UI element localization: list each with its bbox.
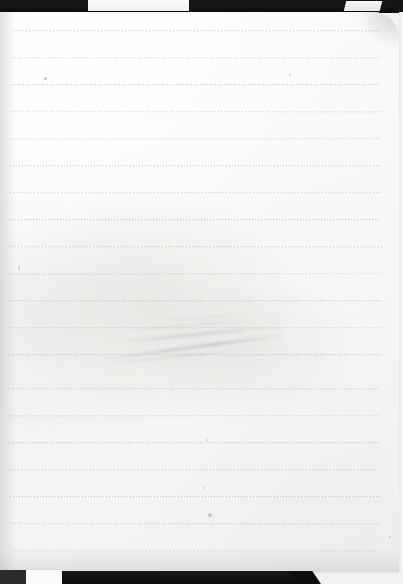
paper-bottom-edge-shadow <box>0 548 399 572</box>
paper-speck-upper-left <box>44 77 47 80</box>
scanner-bed-bottom-gap <box>26 570 62 584</box>
ruled-line <box>11 111 381 112</box>
scanner-bed-highlight-left <box>88 0 189 11</box>
paper-speck-upper-right <box>289 74 291 76</box>
paper-speck-left-edge <box>18 265 20 270</box>
ruled-line <box>8 415 380 416</box>
ruled-line <box>8 327 381 328</box>
ruled-line <box>12 57 380 58</box>
paper-speck-right-edge <box>389 536 391 538</box>
ruled-line <box>10 496 380 497</box>
ruled-line <box>9 469 380 470</box>
ruled-line <box>10 165 381 166</box>
ruled-line <box>8 442 380 443</box>
paper-speck-low-center <box>203 487 205 489</box>
ruled-line <box>10 192 382 193</box>
page-right-margin-strip <box>399 12 403 572</box>
ruled-line <box>8 388 380 389</box>
paper-top-right-corner-shadow <box>339 12 399 64</box>
ruled-line <box>9 273 382 274</box>
scanner-bed-highlight-right <box>344 1 382 11</box>
ruled-line <box>10 138 381 139</box>
ruled-line <box>14 30 380 31</box>
ruled-lines-group <box>0 12 399 572</box>
ruled-line <box>12 523 380 524</box>
scanned-page-viewport: Blank ruled notebook page <box>0 0 403 584</box>
ruled-line <box>11 84 380 85</box>
ruled-line <box>9 219 381 220</box>
paper-speck-lower-center <box>208 513 212 517</box>
scanner-bed-bottom-left-block <box>0 570 26 584</box>
ruled-line <box>9 246 382 247</box>
scanner-bed-bottom-bar <box>62 571 311 584</box>
paper-left-edge-shadow <box>0 12 16 572</box>
ruled-line <box>8 354 381 355</box>
ruled-line <box>8 300 381 301</box>
notebook-paper-sheet <box>0 12 399 572</box>
paper-speck-mid-center <box>206 439 208 441</box>
